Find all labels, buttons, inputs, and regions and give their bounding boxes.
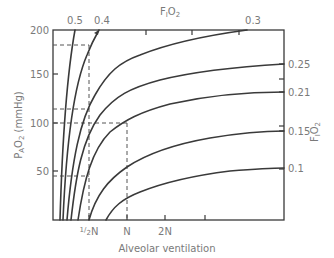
- top-label-0.5: 0.5: [67, 15, 83, 26]
- right-label-0.15: 0.15: [288, 126, 310, 137]
- right-axis-title: FIO2: [309, 122, 322, 142]
- y-tick-150: 150: [30, 69, 49, 80]
- curve-fio2-0.15: [89, 131, 284, 220]
- chart: 200 150 100 50 PAO2 (mmHg) 0.5 0.4 0.3 F…: [0, 0, 334, 258]
- svg-text:PAO2 (mmHg): PAO2 (mmHg): [13, 91, 26, 159]
- curve-fio2-0.1: [106, 168, 284, 220]
- right-label-0.25: 0.25: [288, 59, 310, 70]
- y-tick-50: 50: [36, 166, 49, 177]
- svg-text:FIO2: FIO2: [309, 122, 322, 142]
- y-tick-200: 200: [30, 25, 49, 36]
- top-axis-title: FIO2: [160, 6, 180, 19]
- x-tick-half-n: 1/2N: [80, 226, 99, 237]
- plot-frame: [53, 30, 284, 220]
- curve-fio2-0.5: [60, 30, 75, 220]
- x-tick-n: N: [123, 226, 130, 237]
- curves: [60, 30, 284, 220]
- right-label-0.1: 0.1: [288, 163, 304, 174]
- x-axis-title: Alveolar ventilation: [118, 243, 215, 254]
- arrowhead-icon: [94, 30, 99, 35]
- right-axis-ticks: [279, 64, 284, 169]
- svg-text:FIO2: FIO2: [160, 6, 180, 19]
- x-tick-2n: 2N: [158, 226, 172, 237]
- top-label-0.4: 0.4: [94, 15, 110, 26]
- y-axis-title: PAO2 (mmHg): [13, 91, 26, 159]
- right-label-0.21: 0.21: [288, 87, 310, 98]
- curve-fio2-0.25: [71, 64, 284, 220]
- top-label-0.3: 0.3: [245, 15, 261, 26]
- y-tick-100: 100: [30, 118, 49, 129]
- curve-fio2-0.21: [78, 92, 284, 220]
